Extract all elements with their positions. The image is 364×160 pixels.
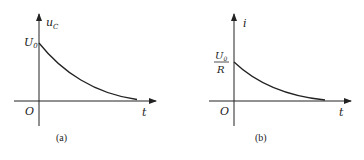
- y-axis-label-b: i: [243, 17, 247, 30]
- diagram-canvas: uC U0 O t (a) i U0 R O t (b): [0, 0, 364, 160]
- x-axis-label-b: t: [339, 106, 344, 119]
- figure-b: i U0 R O t (b): [209, 14, 351, 144]
- caption-b: (b): [255, 132, 267, 144]
- initial-value-label-a: U0: [24, 36, 38, 50]
- decay-curve-a: [39, 43, 137, 100]
- x-axis-label-a: t: [142, 106, 147, 119]
- origin-label-b: O: [220, 105, 229, 118]
- y-axis-label-a: uC: [46, 16, 59, 31]
- figure-a: uC U0 O t (a): [14, 14, 156, 144]
- decay-curve-b: [234, 62, 325, 100]
- initial-value-denominator-b: R: [216, 64, 225, 75]
- origin-label-a: O: [25, 105, 34, 118]
- caption-a: (a): [56, 132, 67, 144]
- initial-value-numerator-b: U0: [215, 50, 227, 62]
